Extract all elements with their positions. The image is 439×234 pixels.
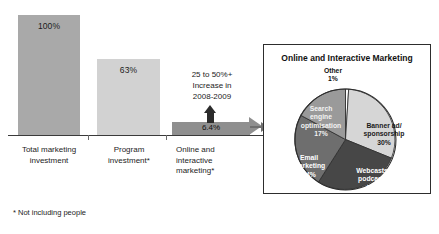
- growth-annotation: 25 to 50%+ Increase in 2008-2009: [176, 69, 248, 102]
- pie-label-text-line-2: marketing: [286, 162, 332, 170]
- pie-label-text-line-2: podcasts: [346, 175, 400, 183]
- footnote: * Not including people: [13, 208, 86, 217]
- growth-annotation-line-2: Increase in: [176, 80, 248, 91]
- category-label-line-1: Program: [96, 145, 162, 156]
- pie-label-other: Other 1%: [308, 67, 358, 84]
- pie-label-text-line-3: optimisation: [297, 122, 345, 130]
- category-label-program-investment: Program investment*: [96, 145, 162, 166]
- pie-label-text-line-1: Webcasts/: [346, 167, 400, 175]
- x-axis-line: [8, 135, 264, 136]
- category-label-online-interactive-marketing: Online and interactive marketing*: [176, 145, 230, 177]
- pie-label-webcasts-podcasts: Webcasts/ podcasts 28%: [346, 167, 400, 192]
- pie-label-text-line-1: Search: [297, 105, 345, 113]
- pie-label-search-engine-optimisation: Search engine optimisation 17%: [297, 105, 345, 139]
- bar-value-label: 63%: [97, 65, 160, 75]
- category-label-line-1: Total marketing: [8, 145, 90, 156]
- category-label-total-marketing-investment: Total marketing investment: [8, 145, 90, 166]
- bar-value-label: 100%: [18, 21, 80, 31]
- category-label-line-2: investment*: [96, 156, 162, 167]
- pie-label-percent: 24%: [286, 171, 332, 179]
- pie-label-percent: 1%: [308, 75, 358, 83]
- bar-program-investment: 63%: [97, 59, 160, 135]
- pie-label-text: Other: [308, 67, 358, 75]
- category-label-line-3: marketing*: [176, 166, 230, 177]
- pie-label-text-line-1: Email: [286, 154, 332, 162]
- pie-label-percent: 17%: [297, 130, 345, 138]
- bar-chart: 100% 63% 6.4% 25 to 50%+ Increase in 200…: [0, 0, 270, 234]
- axis-tick-1: [88, 135, 89, 140]
- slide-canvas: 100% 63% 6.4% 25 to 50%+ Increase in 200…: [0, 0, 439, 234]
- pie-label-email-marketing: Email marketing 24%: [286, 154, 332, 179]
- category-label-line-1: Online and: [176, 145, 230, 156]
- bar-total-marketing-investment: 100%: [18, 15, 80, 135]
- category-label-line-2: investment: [8, 156, 90, 167]
- growth-annotation-line-3: 2008-2009: [176, 91, 248, 102]
- pie-label-text-line-2: engine: [297, 113, 345, 121]
- pie-chart-panel: Online and Interactive Marketing Other 1…: [263, 44, 431, 194]
- category-label-line-2: interactive: [176, 156, 230, 167]
- pie-chart-title: Online and Interactive Marketing: [264, 53, 430, 63]
- pie-label-banner-ad-sponsorship: Banner ad/ sponsorship 30%: [356, 122, 412, 147]
- pie-label-percent: 28%: [346, 184, 400, 192]
- pie-label-text-line-1: Banner ad/: [356, 122, 412, 130]
- pie-label-percent: 30%: [356, 139, 412, 147]
- pie-label-text-line-2: sponsorship: [356, 130, 412, 138]
- bar-value-label-online: 6.4%: [172, 123, 250, 132]
- growth-annotation-line-1: 25 to 50%+: [176, 69, 248, 80]
- axis-tick-2: [166, 135, 167, 140]
